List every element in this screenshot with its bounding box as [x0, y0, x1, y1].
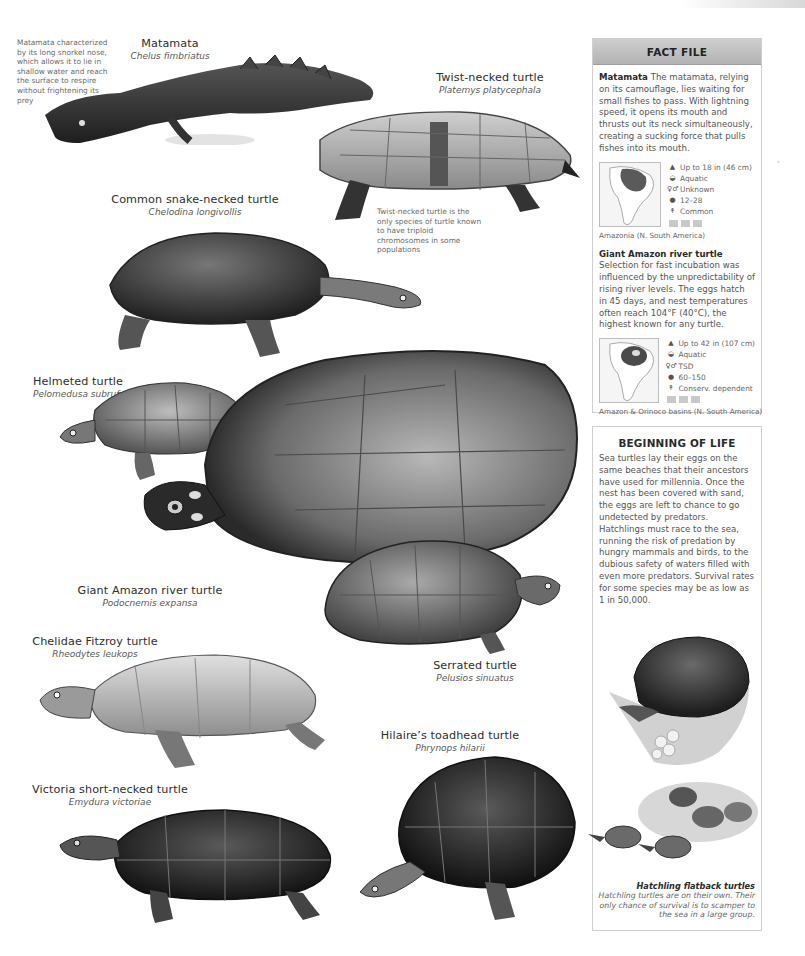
lake-icon — [693, 220, 702, 227]
common-name: Matamata — [120, 37, 220, 50]
beginning-of-life-panel: BEGINNING OF LIFE Sea turtles lay their … — [592, 426, 762, 931]
size-icon: ▲ — [665, 338, 676, 349]
stat-sex-determination: ♀♂Unknown — [667, 184, 752, 195]
common-name: Twist-necked turtle — [430, 71, 550, 84]
common-name: Common snake-necked turtle — [110, 193, 280, 206]
page-edge-mark: ‹ — [777, 158, 780, 166]
fact-file-panel: FACT FILE Matamata The matamata, relying… — [592, 38, 762, 413]
stat-habitat: ◒Aquatic — [665, 349, 755, 360]
range-region-matamata: Amazonia (N. South America) — [599, 231, 755, 240]
hatchling-caption-text: Hatchling turtles are on their own. Thei… — [599, 891, 755, 919]
status-icon: ↟ — [665, 383, 676, 394]
habitat-icons — [667, 396, 755, 403]
common-snake-necked-turtle-illustration — [95, 225, 430, 365]
hatchling-turtles-illustration — [578, 772, 763, 867]
habitat-icons — [669, 220, 752, 227]
stat-status: ↟Conserv. dependent — [665, 383, 755, 394]
latin-name: Platemys platycephala — [430, 85, 550, 95]
common-name: Chelidae Fitzroy turtle — [20, 635, 170, 648]
species-label-serrated: Serrated turtle Pelusios sinuatus — [425, 659, 525, 683]
egg-icon: ● — [665, 372, 676, 383]
stat-habitat: ◒Aquatic — [667, 173, 752, 184]
common-name: Hilaire’s toadhead turtle — [380, 729, 520, 742]
fact-entry-name: Matamata — [599, 72, 648, 82]
habitat-icon: ◒ — [667, 173, 678, 184]
hatchling-caption: Hatchling flatback turtles Hatchling tur… — [595, 882, 755, 920]
status-icon: ↟ — [667, 206, 678, 217]
sex-icon: ♀♂ — [665, 361, 676, 372]
egg-icon: ● — [667, 195, 678, 206]
stat-status: ↟Common — [667, 206, 752, 217]
species-label-twist-necked: Twist-necked turtle Platemys platycephal… — [430, 71, 550, 95]
fact-entry-matamata: Matamata The matamata, relying on its ca… — [599, 72, 755, 155]
latin-name: Chelodina longivollis — [110, 207, 280, 217]
beginning-of-life-title: BEGINNING OF LIFE — [593, 437, 761, 449]
stat-size: ▲Up to 42 in (107 cm) — [665, 338, 755, 349]
lake-icon — [691, 396, 700, 403]
river-icon — [667, 396, 676, 403]
nesting-turtle-illustration — [599, 632, 759, 772]
marsh-icon — [681, 220, 690, 227]
hatchling-caption-title: Hatchling flatback turtles — [595, 882, 755, 892]
species-label-giant-amazon: Giant Amazon river turtle Podocnemis exp… — [70, 584, 230, 608]
page-edge-strip — [680, 0, 805, 8]
victoria-short-necked-turtle-illustration — [55, 805, 340, 930]
stat-clutch-size: ●12–28 — [667, 195, 752, 206]
species-label-hilaires-toadhead: Hilaire’s toadhead turtle Phrynops hilar… — [380, 729, 520, 753]
chelidae-fitzroy-turtle-illustration — [35, 650, 330, 775]
species-label-common-snake-necked: Common snake-necked turtle Chelodina lon… — [110, 193, 280, 217]
latin-name: Podocnemis expansa — [70, 598, 230, 608]
sex-icon: ♀♂ — [667, 184, 678, 195]
fact-entry-name: Giant Amazon river turtle — [599, 249, 723, 259]
fact-file-title: FACT FILE — [593, 39, 761, 65]
hilaires-toadhead-turtle-illustration — [355, 752, 580, 927]
beginning-of-life-text: Sea turtles lay their eggs on the same b… — [593, 449, 761, 606]
fact-entry-text: The matamata, relying on its camouflage,… — [599, 72, 753, 153]
species-label-victoria-short-necked: Victoria short-necked turtle Emydura vic… — [30, 783, 190, 807]
range-map-matamata — [599, 162, 661, 227]
river-icon — [669, 220, 678, 227]
latin-name: Pelusios sinuatus — [425, 673, 525, 683]
fact-entry-text: Selection for fast incubation was influe… — [599, 260, 755, 329]
stat-sex-determination: ♀♂TSD — [665, 361, 755, 372]
common-name: Serrated turtle — [425, 659, 525, 672]
fact-entry-giant-amazon: Giant Amazon river turtle Selection for … — [599, 249, 755, 332]
common-name: Giant Amazon river turtle — [70, 584, 230, 597]
range-map-giant-amazon — [599, 338, 659, 403]
common-name: Victoria short-necked turtle — [30, 783, 190, 796]
size-icon: ▲ — [667, 162, 678, 173]
range-region-giant-amazon: Amazon & Orinoco basins (N. South Americ… — [599, 407, 755, 416]
habitat-icon: ◒ — [665, 349, 676, 360]
serrated-turtle-illustration — [320, 530, 565, 655]
stat-size: ▲Up to 18 in (46 cm) — [667, 162, 752, 173]
marsh-icon — [679, 396, 688, 403]
stat-clutch-size: ●60–150 — [665, 372, 755, 383]
